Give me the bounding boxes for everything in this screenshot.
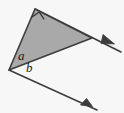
angle-label-a: a — [18, 48, 25, 63]
angle-label-b: b — [26, 60, 33, 75]
geometry-figure-svg: a b — [0, 0, 124, 113]
geometry-figure-container: a b — [0, 0, 124, 113]
